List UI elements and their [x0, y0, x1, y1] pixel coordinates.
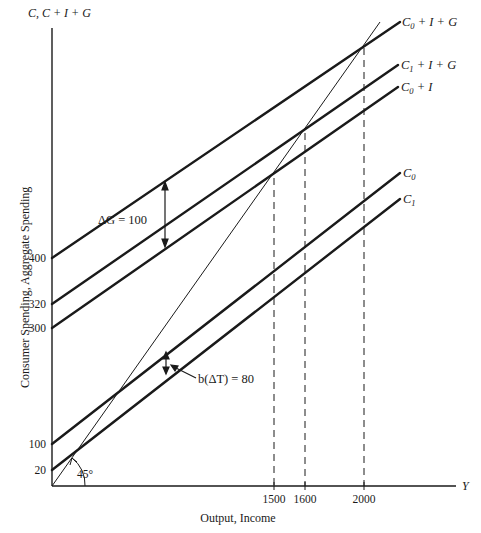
tick-1600: 1600	[294, 493, 317, 505]
delta-g-label: ΔG = 100	[98, 213, 147, 227]
tick-1500: 1500	[263, 493, 286, 505]
line-labels: C0 + I + G C1 + I + G C0 + I C0 C1	[401, 15, 457, 208]
x-axis-title: Output, Income	[200, 511, 275, 525]
line-c1-i-g	[52, 65, 398, 304]
tick-2000: 2000	[353, 493, 376, 505]
keynesian-cross-chart: 400 320 300 100 20 1500 1600 2000 C, C +…	[0, 0, 481, 533]
line-c0-i	[52, 87, 398, 328]
label-c1: C1	[403, 192, 416, 208]
x-tick-labels: 1500 1600 2000	[263, 493, 376, 505]
delta-g-arrow-icon	[162, 182, 168, 247]
tick-20: 20	[35, 464, 47, 476]
angle-label: 45°	[77, 468, 94, 480]
label-c0-i: C0 + I	[401, 80, 433, 96]
label-c1-i-g: C1 + I + G	[401, 58, 456, 74]
label-c0-i-g: C0 + I + G	[402, 15, 457, 31]
y-axis-title: Consumer Spending, Aggregate Spending	[18, 187, 32, 388]
y-axis-top-label: C, C + I + G	[28, 6, 91, 20]
x-axis-symbol: Y	[462, 479, 470, 493]
tick-100: 100	[29, 438, 47, 450]
spending-lines	[52, 22, 400, 470]
b-delta-t-label: b(ΔT) = 80	[198, 372, 254, 386]
axes	[52, 28, 456, 486]
equilibrium-guides	[274, 48, 364, 486]
label-c0: C0	[403, 166, 416, 182]
b-delta-t-arrow-icon	[163, 352, 196, 378]
